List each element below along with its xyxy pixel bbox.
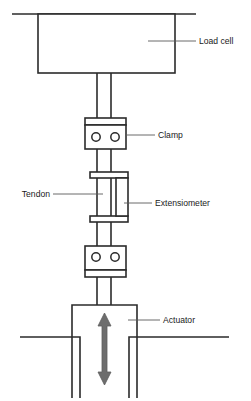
lower-clamp-bolt-hole-left (92, 253, 100, 261)
lower-clamp-block (85, 246, 126, 270)
extensiometer-upper-cap (90, 172, 128, 178)
lower-clamp-bolt-hole-right (111, 253, 119, 261)
lower-rod-group (97, 277, 111, 305)
upper-clamp-band (85, 118, 126, 125)
upper-clamp-bolt-hole-right (111, 133, 119, 141)
lower-clamp-group (85, 246, 126, 277)
test-setup-diagram: Load cell Clamp Tendon Extensiometer Act… (0, 0, 251, 401)
clamp-label: Clamp (158, 130, 183, 140)
load-cell-body (38, 14, 175, 73)
diagram-canvas: Load cell Clamp Tendon Extensiometer Act… (0, 0, 251, 401)
tendon-group (97, 149, 111, 246)
actuator-base-left (20, 337, 80, 398)
actuator-group (20, 305, 229, 398)
actuator-label: Actuator (163, 315, 195, 325)
extensiometer-group (90, 172, 128, 222)
clamp-label-group: Clamp (126, 130, 183, 140)
tendon-label-group: Tendon (22, 189, 103, 199)
actuator-base-right (129, 337, 229, 398)
extensiometer-body (116, 178, 128, 216)
extensiometer-lower-cap (90, 216, 128, 222)
actuator-label-group: Actuator (128, 315, 195, 325)
load-cell-group (12, 14, 196, 73)
lower-clamp-band (85, 270, 126, 277)
upper-clamp-group (85, 118, 126, 149)
load-cell-label: Load cell (199, 36, 233, 46)
upper-rod-group (97, 73, 111, 119)
tendon-label: Tendon (22, 189, 50, 199)
upper-clamp-bolt-hole-left (92, 133, 100, 141)
extensiometer-label-group: Extensiometer (124, 198, 210, 208)
extensiometer-label: Extensiometer (155, 198, 210, 208)
